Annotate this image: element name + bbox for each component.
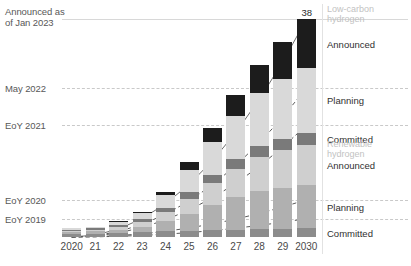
bar-2020[interactable] (62, 228, 81, 237)
bar-segment (273, 229, 292, 237)
annotation-label: EoY 2020 (5, 195, 46, 206)
bar-segment (203, 142, 222, 175)
bar-segment (203, 230, 222, 237)
bar-segment (226, 95, 245, 116)
bar-segment (250, 65, 269, 94)
bar-26[interactable] (203, 128, 222, 237)
bar-segment (297, 19, 316, 68)
bar-2030[interactable] (297, 19, 316, 237)
x-axis: 20202122232425262728292030 (60, 241, 318, 259)
legend-item-renewable-planning[interactable]: Planning (327, 202, 364, 213)
bar-segment (226, 230, 245, 237)
bar-segment (273, 42, 292, 79)
bar-segment (297, 133, 316, 145)
bar-segment (297, 68, 316, 133)
legend-group-title-renewable: Renewable hydrogen (327, 139, 372, 159)
annotation-label: EoY 2021 (5, 120, 46, 131)
bar-29[interactable] (273, 42, 292, 237)
bar-segment (156, 221, 175, 231)
annotation-label: May 2022 (5, 83, 46, 94)
legend-item-renewable-announced[interactable]: Announced (327, 160, 375, 171)
bar-segment (250, 146, 269, 157)
bar-segment (250, 157, 269, 191)
bar-segment (297, 228, 316, 237)
x-axis-tick-2030: 2030 (286, 241, 326, 252)
bar-23[interactable] (133, 212, 152, 237)
legend-item-low-carbon-announced[interactable]: Announced (327, 39, 375, 50)
bar-27[interactable] (226, 95, 245, 237)
bar-25[interactable] (180, 162, 199, 237)
plot-area: 38 (60, 8, 318, 237)
bar-segment (226, 169, 245, 198)
legend-item-low-carbon-planning[interactable]: Planning (327, 95, 364, 106)
bar-segment (203, 205, 222, 230)
bar-segment (156, 212, 175, 221)
legend-item-renewable-committed[interactable]: Committed (327, 228, 373, 239)
bar-segment (86, 234, 105, 237)
bar-value-label: 38 (287, 7, 327, 18)
bar-28[interactable] (250, 65, 269, 237)
bar-22[interactable] (109, 221, 128, 237)
bar-segment (250, 191, 269, 229)
legend-group-title-low-carbon: Low-carbon hydrogen (327, 4, 374, 24)
bar-segment (180, 214, 199, 231)
bar-segment (180, 162, 199, 170)
annotation-label: EoY 2019 (5, 214, 46, 225)
bar-segment (180, 170, 199, 192)
bar-segment (180, 231, 199, 237)
chart-container: Announced as of Jan 2023May 2022EoY 2021… (0, 0, 411, 266)
bar-segment (250, 93, 269, 146)
chart-legend: Low-carbon hydrogenAnnouncedPlanningComm… (322, 4, 408, 254)
bar-segment (62, 234, 81, 237)
bar-segment (133, 232, 152, 237)
bar-segment (203, 128, 222, 142)
bar-segment (203, 175, 222, 183)
bar-segment (273, 188, 292, 229)
bar-segment (156, 195, 175, 208)
bar-segment (273, 139, 292, 150)
bar-24[interactable] (156, 192, 175, 237)
bar-segment (273, 79, 292, 139)
bar-segment (226, 197, 245, 229)
bar-segment (297, 185, 316, 229)
bar-segment (156, 231, 175, 237)
bar-segment (250, 229, 269, 237)
bar-segment (203, 183, 222, 205)
bar-segment (297, 145, 316, 185)
bar-segment (226, 159, 245, 169)
bar-segment (273, 150, 292, 188)
bar-segment (226, 116, 245, 160)
annotation-label: Announced as of Jan 2023 (5, 6, 65, 28)
bar-segment (180, 199, 199, 214)
bar-segment (109, 233, 128, 237)
bar-21[interactable] (86, 227, 105, 237)
